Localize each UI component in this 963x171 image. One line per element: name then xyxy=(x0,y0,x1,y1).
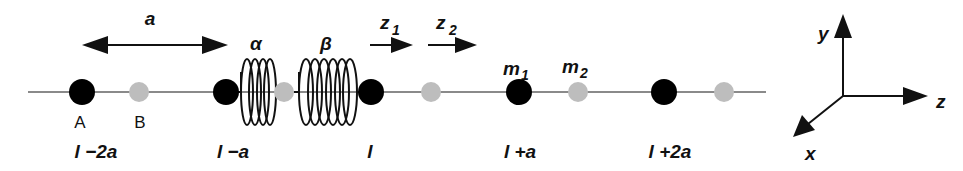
svg-text:2: 2 xyxy=(579,65,588,81)
z-axis-arrow-icon xyxy=(903,87,928,105)
svg-text:1: 1 xyxy=(392,22,400,38)
atom-a xyxy=(69,79,95,105)
lattice-spacing-arrow: a xyxy=(82,8,228,54)
x-axis-arrow-icon xyxy=(793,115,815,137)
position-label: l +2a xyxy=(649,141,692,162)
atom-b xyxy=(714,82,734,102)
displacement-z1: z 1 xyxy=(370,12,413,53)
svg-text:z: z xyxy=(435,12,446,33)
spring-beta-label: β xyxy=(319,33,332,54)
mass-m2-label: m xyxy=(562,56,579,77)
svg-text:2: 2 xyxy=(448,22,457,38)
spacing-label: a xyxy=(145,8,156,29)
atom-b xyxy=(274,82,294,102)
atom-b xyxy=(129,82,149,102)
atom-b xyxy=(421,82,441,102)
atom-a xyxy=(358,79,384,105)
atom-a-label: A xyxy=(74,113,86,132)
x-axis-label: x xyxy=(804,143,817,164)
position-label: l −a xyxy=(217,141,250,162)
coordinate-axes: y z x xyxy=(793,14,946,164)
atom-a xyxy=(213,79,239,105)
spring-alpha-label: α xyxy=(250,33,263,54)
atom-b xyxy=(568,82,588,102)
diatomic-chain-diagram: a α β z 1 z 2 xyxy=(0,0,963,171)
z-axis-label: z xyxy=(935,91,946,112)
atom-b-label: B xyxy=(134,113,145,132)
y-axis-label: y xyxy=(817,23,830,44)
mass-m1-label: m xyxy=(503,58,520,79)
svg-text:1: 1 xyxy=(521,67,529,83)
position-label: l +a xyxy=(504,141,537,162)
position-label: l xyxy=(367,141,373,162)
displacement-z2: z 2 xyxy=(428,12,477,53)
position-label: l −2a xyxy=(75,141,118,162)
y-axis-arrow-icon xyxy=(834,14,852,38)
atom-a xyxy=(651,79,677,105)
svg-text:z: z xyxy=(379,12,390,33)
